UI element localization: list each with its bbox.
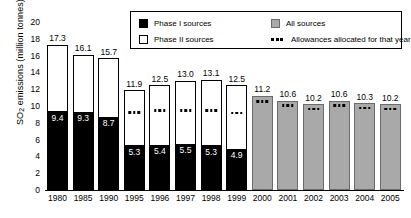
bar-total-value-2004: 10.3 (356, 93, 373, 102)
legend-label-all-sources: All sources (286, 19, 325, 28)
bar-1980: 9.417.3 (47, 45, 68, 190)
x-axis-line (45, 190, 404, 191)
y-tick-8: 8 (18, 119, 40, 128)
legend-entry-phase-ii-sources: Phase II sources (139, 35, 271, 44)
bar-total-value-2001: 10.6 (280, 90, 297, 99)
x-tick-1998: 1998 (198, 194, 224, 203)
bar-total-value-1998: 13.1 (203, 69, 220, 78)
bar-segment-all-sources-2004 (354, 103, 375, 190)
y-tick-18: 18 (18, 35, 40, 44)
bar-total-value-1997: 13.0 (177, 70, 194, 79)
bar-1997: 5.513.0 (175, 81, 196, 190)
bar-phase-i-value-1985: 9.3 (77, 114, 89, 123)
bar-total-value-2002: 10.2 (305, 94, 322, 103)
bar-segment-all-sources-2003 (329, 101, 350, 190)
bar-2005: 10.2 (380, 104, 401, 190)
y-tick-16: 16 (18, 51, 40, 60)
legend-swatch-all-sources-icon (271, 19, 280, 28)
bar-phase-i-value-1990: 8.7 (103, 119, 115, 128)
bar-segment-all-sources-2002 (303, 104, 324, 190)
bar-1999: 4.912.5 (226, 85, 247, 190)
legend-label-allowances: Allowances allocated for that year (291, 35, 411, 44)
allowance-marker-2005 (385, 108, 397, 111)
y-tick-12: 12 (18, 85, 40, 94)
legend-entry-phase-i-sources: Phase I sources (139, 19, 271, 28)
chart-legend: Phase I sources All sources Phase II sou… (130, 11, 402, 49)
allowance-marker-2003 (333, 104, 345, 107)
bar-segment-all-sources-2000 (252, 96, 273, 190)
y-tick-2: 2 (18, 169, 40, 178)
bar-segment-all-sources-2001 (277, 101, 298, 190)
legend-swatch-allowances-dots-icon (271, 38, 283, 41)
y-tick-10: 10 (18, 102, 40, 111)
bar-phase-i-value-1996: 5.4 (154, 147, 166, 156)
x-tick-1996: 1996 (147, 194, 173, 203)
allowance-marker-2001 (282, 104, 294, 107)
bar-total-value-1980: 17.3 (49, 34, 66, 43)
bar-2003: 10.6 (329, 101, 350, 190)
legend-row-2: Phase II sources Allowances allocated fo… (139, 32, 411, 46)
bar-1990: 8.715.7 (98, 58, 119, 190)
x-tick-1990: 1990 (96, 194, 122, 203)
bar-2000: 11.2 (252, 96, 273, 190)
bar-2002: 10.2 (303, 104, 324, 190)
y-tick-14: 14 (18, 68, 40, 77)
bar-segment-all-sources-2005 (380, 104, 401, 190)
legend-swatch-phase-ii-icon (139, 35, 148, 44)
allowance-marker-2000 (257, 100, 269, 103)
bar-1996: 5.412.5 (149, 85, 170, 190)
allowance-marker-1995 (129, 111, 141, 114)
allowance-marker-1997 (180, 109, 192, 112)
bar-segment-phase-i-1980 (47, 111, 68, 190)
x-tick-2004: 2004 (352, 194, 378, 203)
bar-total-value-2003: 10.6 (331, 90, 348, 99)
bar-2001: 10.6 (277, 101, 298, 190)
bar-phase-i-value-1995: 5.3 (128, 148, 140, 157)
bar-total-value-1995: 11.9 (126, 80, 142, 89)
y-tick-0: 0 (18, 186, 40, 195)
bar-1998: 5.313.1 (201, 80, 222, 190)
y-axis-tick-labels: 20181614121086420 (18, 0, 40, 218)
x-tick-2005: 2005 (377, 194, 403, 203)
bar-phase-i-value-1997: 5.5 (180, 146, 192, 155)
x-tick-1997: 1997 (173, 194, 199, 203)
legend-label-phase-ii: Phase II sources (154, 35, 214, 44)
x-tick-2001: 2001 (275, 194, 301, 203)
allowance-marker-1999 (231, 112, 243, 115)
y-tick-4: 4 (18, 152, 40, 161)
x-tick-1980: 1980 (45, 194, 71, 203)
bar-total-value-2005: 10.2 (382, 94, 399, 103)
bar-total-value-1996: 12.5 (152, 75, 169, 84)
legend-entry-all-sources: All sources (271, 19, 325, 28)
x-tick-1999: 1999 (224, 194, 250, 203)
allowance-marker-1998 (205, 109, 217, 112)
legend-label-phase-i: Phase I sources (154, 19, 211, 28)
y-tick-20: 20 (18, 18, 40, 27)
y-tick-6: 6 (18, 135, 40, 144)
bar-total-value-1985: 16.1 (75, 44, 92, 53)
legend-entry-allowances: Allowances allocated for that year (271, 35, 411, 44)
x-tick-2000: 2000 (249, 194, 275, 203)
bar-total-value-2000: 11.2 (254, 85, 270, 94)
x-tick-2002: 2002 (301, 194, 327, 203)
allowance-marker-2002 (308, 108, 320, 111)
bar-1995: 5.311.9 (124, 90, 145, 190)
bar-phase-i-value-1998: 5.3 (205, 148, 217, 157)
x-tick-1995: 1995 (121, 194, 147, 203)
bar-segment-phase-i-1985 (73, 112, 94, 190)
bar-total-value-1999: 12.5 (228, 75, 245, 84)
allowance-marker-2004 (359, 107, 371, 110)
legend-row-1: Phase I sources All sources (139, 16, 325, 30)
bar-total-value-1990: 15.7 (100, 48, 117, 57)
legend-swatch-phase-i-icon (139, 19, 148, 28)
bar-phase-i-value-1980: 9.4 (52, 114, 64, 123)
bar-1985: 9.316.1 (73, 55, 94, 190)
allowance-marker-1996 (154, 109, 166, 112)
bar-phase-i-value-1999: 4.9 (231, 151, 243, 160)
bar-2004: 10.3 (354, 103, 375, 190)
x-tick-2003: 2003 (326, 194, 352, 203)
x-tick-1985: 1985 (70, 194, 96, 203)
